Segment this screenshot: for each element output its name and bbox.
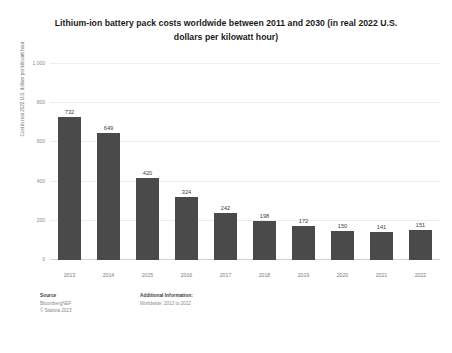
y-axis-tick-label: 800 [37,99,45,105]
chart-region: Cost in real 2022 U.S. dollars per kilow… [0,58,452,286]
bar-slot[interactable]: 198 [245,64,284,260]
bar-slot[interactable]: 649 [89,64,128,260]
bar[interactable] [97,133,121,260]
bar-slot[interactable]: 324 [167,64,206,260]
x-axis-tick-label: 2014 [89,272,128,278]
bar-value-label: 151 [401,222,440,228]
chart-footer: Source BloombergNEF © Statista 2023 Addi… [0,292,452,326]
bar-slot[interactable]: 172 [284,64,323,260]
x-axis-tick-label: 2015 [128,272,167,278]
bar-slot[interactable]: 242 [206,64,245,260]
bar-value-label: 732 [50,109,89,115]
footer-additional-heading: Additional Information: [140,292,300,299]
bar-value-label: 150 [323,223,362,229]
y-axis-tick-label: 1,000 [32,60,45,66]
footer-additional-text: Worldwide; 2013 to 2022 [140,300,300,307]
bar[interactable] [175,197,199,261]
x-axis-tick-label: 2017 [206,272,245,278]
x-axis-tick-label: 2021 [362,272,401,278]
bar-value-label: 242 [206,205,245,211]
page-title: Lithium-ion battery pack costs worldwide… [0,0,452,44]
x-axis-tick-label: 2020 [323,272,362,278]
bar[interactable] [409,230,433,260]
footer-source-name[interactable]: BloombergNEF [40,300,140,307]
bar-slot[interactable]: 732 [50,64,89,260]
plot-area: 02004006008001,000 732649420324242198172… [50,64,440,260]
x-axis-tick-label: 2016 [167,272,206,278]
bar-value-label: 141 [362,224,401,230]
bar[interactable] [136,178,160,260]
footer-additional-block: Additional Information: Worldwide; 2013 … [140,292,300,307]
footer-source-block: Source BloombergNEF © Statista 2023 [40,292,140,314]
y-axis-tick-label: 600 [37,138,45,144]
bar[interactable] [331,231,355,260]
x-axis-tick-label: 2022 [401,272,440,278]
statista-chart-card: Lithium-ion battery pack costs worldwide… [0,0,452,334]
x-axis-tick-labels: 2013201420152016201720182019202020212022 [50,272,440,278]
y-axis-tick-label: 0 [42,256,45,262]
y-axis-title: Cost in real 2022 U.S. dollars per kilow… [17,9,29,169]
bar-slot[interactable]: 141 [362,64,401,260]
bar-slot[interactable]: 420 [128,64,167,260]
page-caption [0,336,452,353]
bar-value-label: 649 [89,125,128,131]
bar-value-label: 324 [167,189,206,195]
bar[interactable] [370,232,394,260]
x-axis-tick-label: 2013 [50,272,89,278]
bar[interactable] [253,221,277,260]
bar[interactable] [58,117,82,260]
bar[interactable] [214,213,238,260]
bar-series: 732649420324242198172150141151 [50,64,440,260]
bar-slot[interactable]: 151 [401,64,440,260]
bar[interactable] [292,226,316,260]
x-axis-tick-label: 2019 [284,272,323,278]
y-axis-tick-label: 400 [37,178,45,184]
bar-value-label: 172 [284,218,323,224]
bar-slot[interactable]: 150 [323,64,362,260]
bar-value-label: 420 [128,170,167,176]
y-axis-tick-label: 200 [37,217,45,223]
x-axis-tick-label: 2018 [245,272,284,278]
bar-value-label: 198 [245,213,284,219]
footer-copyright: © Statista 2023 [40,307,140,314]
footer-source-heading: Source [40,292,140,299]
